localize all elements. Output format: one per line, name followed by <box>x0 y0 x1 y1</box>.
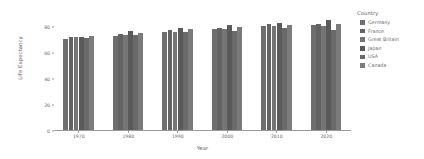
bar <box>63 39 68 130</box>
bar <box>173 32 178 130</box>
bar <box>222 29 227 130</box>
legend-label: France <box>368 29 384 34</box>
y-tick: 20 <box>44 95 54 114</box>
x-tick-mark <box>276 130 277 133</box>
legend-item[interactable]: Great Britain <box>357 37 421 43</box>
bar <box>123 35 128 130</box>
x-tick-mark <box>177 130 178 133</box>
x-axis-line <box>54 130 351 131</box>
legend-label: Canada <box>368 63 386 68</box>
y-tick-mark <box>52 53 55 54</box>
legend-swatch-icon <box>360 37 365 42</box>
y-axis-title: Life Expectancy <box>17 18 23 98</box>
x-tick-label: 2010 <box>262 134 292 139</box>
x-tick-mark <box>326 130 327 133</box>
bar <box>261 26 266 130</box>
legend-label: Germany <box>368 20 390 25</box>
y-tick: 0 <box>47 121 54 140</box>
bar <box>336 24 341 130</box>
y-tick-label: 0 <box>47 129 50 134</box>
x-tick-mark <box>78 130 79 133</box>
y-tick: 40 <box>44 69 54 88</box>
x-tick-mark <box>227 130 228 133</box>
legend-title: Country <box>357 10 421 16</box>
legend-label: Japan <box>368 46 381 51</box>
x-tick-label: 1980 <box>113 134 143 139</box>
y-tick-label: 20 <box>44 103 50 108</box>
y-tick-mark <box>52 79 55 80</box>
x-tick-label: 2020 <box>311 134 341 139</box>
legend-item[interactable]: Germany <box>357 20 421 26</box>
x-tick: 1990 <box>163 130 193 139</box>
x-tick: 2020 <box>311 130 341 139</box>
bar <box>237 27 242 130</box>
legend-item[interactable]: USA <box>357 54 421 60</box>
bar <box>311 25 316 130</box>
x-tick-label: 1990 <box>163 134 193 139</box>
x-tick: 1980 <box>113 130 143 139</box>
legend-item[interactable]: Japan <box>357 45 421 51</box>
bar-chart: Life Expectancy Year 020406080 197019801… <box>0 0 424 159</box>
y-tick: 80 <box>44 17 54 36</box>
x-tick-label: 1970 <box>64 134 94 139</box>
x-tick: 1970 <box>64 130 94 139</box>
legend-items: GermanyFranceGreat BritainJapanUSACanada <box>357 20 421 69</box>
legend: Country GermanyFranceGreat BritainJapanU… <box>357 10 421 71</box>
y-tick-mark <box>52 131 55 132</box>
x-tick-mark <box>128 130 129 133</box>
bar <box>188 29 193 130</box>
bar <box>212 29 217 130</box>
legend-label: USA <box>368 54 378 59</box>
y-tick-label: 80 <box>44 25 50 30</box>
y-tick-mark <box>52 105 55 106</box>
bar <box>138 33 143 130</box>
bar <box>162 32 167 130</box>
bar <box>113 36 118 130</box>
y-tick-label: 40 <box>44 77 50 82</box>
legend-swatch-icon <box>360 46 365 51</box>
legend-item[interactable]: Canada <box>357 62 421 68</box>
bar <box>89 36 94 130</box>
legend-swatch-icon <box>360 63 365 68</box>
x-tick: 2010 <box>262 130 292 139</box>
y-tick-label: 60 <box>44 51 50 56</box>
bar <box>74 37 79 130</box>
legend-swatch-icon <box>360 29 365 34</box>
y-tick-mark <box>52 27 55 28</box>
y-tick: 60 <box>44 43 54 62</box>
legend-label: Great Britain <box>368 37 399 42</box>
plot-area: 020406080 197019801990200020102020 <box>54 16 351 130</box>
x-tick: 2000 <box>212 130 242 139</box>
bar <box>272 26 277 130</box>
legend-item[interactable]: France <box>357 28 421 34</box>
bar <box>321 26 326 130</box>
legend-swatch-icon <box>360 20 365 25</box>
x-axis-title: Year <box>54 145 351 151</box>
x-tick-label: 2000 <box>212 134 242 139</box>
legend-swatch-icon <box>360 55 365 60</box>
bar <box>287 25 292 130</box>
